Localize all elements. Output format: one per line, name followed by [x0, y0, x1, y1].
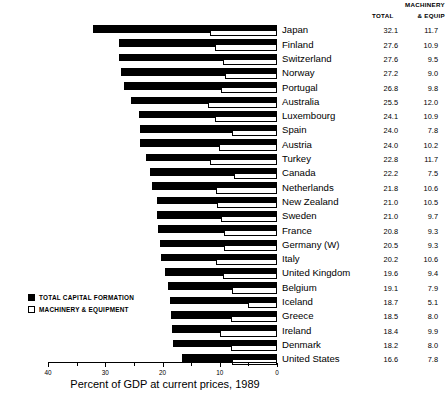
value-machinery: 11.7 [410, 155, 438, 164]
country-label: Sweden [282, 210, 317, 221]
value-total: 21.0 [372, 212, 398, 221]
axis-tick-minor [77, 363, 78, 366]
bar-machinery-equipment [223, 59, 277, 65]
bar-machinery-equipment [220, 330, 277, 336]
bar-group [0, 53, 277, 67]
bar-group [0, 38, 277, 52]
country-label: Norway [282, 67, 315, 78]
header-machinery: MACHINERY [405, 1, 445, 8]
chart-row: Netherlands21.810.6 [0, 181, 446, 195]
axis-tick-minor [191, 363, 192, 366]
chart-row: Switzerland27.69.5 [0, 53, 446, 67]
axis-tick-label: 20 [159, 369, 166, 376]
axis-tick-label: 30 [102, 369, 109, 376]
bar-group [0, 239, 277, 253]
bar-machinery-equipment [215, 116, 277, 122]
axis-tick-label: 0 [275, 369, 279, 376]
chart-row: New Zealand21.010.5 [0, 196, 446, 210]
chart-row: Spain24.07.8 [0, 124, 446, 138]
value-machinery: 10.5 [410, 198, 438, 207]
chart-row: Germany (W)20.59.3 [0, 239, 446, 253]
country-label: Japan [282, 24, 308, 35]
value-total: 22.8 [372, 155, 398, 164]
bar-group [0, 267, 277, 281]
bar-machinery-equipment [210, 30, 277, 36]
bar-machinery-equipment [231, 345, 277, 351]
chart-legend: TOTAL CAPITAL FORMATION MACHINERY & EQUI… [28, 291, 178, 315]
value-machinery: 9.7 [410, 212, 438, 221]
value-machinery: 9.0 [410, 69, 438, 78]
value-total: 27.6 [372, 55, 398, 64]
value-total: 25.5 [372, 98, 398, 107]
bar-machinery-equipment [224, 245, 277, 251]
bar-machinery-equipment [215, 44, 277, 50]
value-machinery: 9.3 [410, 241, 438, 250]
bar-group [0, 224, 277, 238]
value-total: 32.1 [372, 26, 398, 35]
country-label: Denmark [282, 339, 321, 350]
x-axis: Percent of GDP at current prices, 1989 4… [0, 362, 446, 395]
value-total: 22.2 [372, 169, 398, 178]
legend-swatch-total-icon [28, 294, 35, 301]
country-label: Italy [282, 253, 300, 264]
bar-machinery-equipment [210, 159, 277, 165]
country-label: Canada [282, 167, 316, 178]
bar-machinery-equipment [248, 302, 277, 308]
legend-swatch-machinery-icon [28, 306, 35, 313]
value-total: 27.2 [372, 69, 398, 78]
bar-machinery-equipment [225, 73, 277, 79]
bar-group [0, 24, 277, 38]
value-machinery: 9.5 [410, 55, 438, 64]
axis-tick-minor [248, 363, 249, 366]
legend-label-machinery: MACHINERY & EQUIPMENT [39, 306, 129, 313]
value-machinery: 10.6 [410, 255, 438, 264]
value-total: 24.0 [372, 126, 398, 135]
value-machinery: 9.3 [410, 227, 438, 236]
header-total: TOTAL [372, 12, 394, 19]
value-machinery: 9.8 [410, 84, 438, 93]
axis-tick-major [48, 363, 49, 367]
value-total: 20.8 [372, 227, 398, 236]
country-label: Netherlands [282, 182, 334, 193]
value-machinery: 7.9 [410, 284, 438, 293]
chart-row: Japan32.111.7 [0, 24, 446, 38]
value-total: 18.4 [372, 327, 398, 336]
country-label: New Zealand [282, 196, 339, 207]
bar-machinery-equipment [231, 316, 277, 322]
country-label: United Kingdom [282, 267, 350, 278]
axis-tick-major [220, 363, 221, 367]
legend-item-machinery: MACHINERY & EQUIPMENT [28, 303, 178, 315]
country-label: Austria [282, 139, 312, 150]
country-label: Iceland [282, 296, 313, 307]
country-label: Australia [282, 96, 319, 107]
bar-machinery-equipment [224, 230, 277, 236]
chart-row: Denmark18.28.0 [0, 339, 446, 353]
bar-group [0, 324, 277, 338]
bar-machinery-equipment [223, 273, 277, 279]
value-total: 26.8 [372, 84, 398, 93]
value-total: 27.6 [372, 41, 398, 50]
bar-group [0, 110, 277, 124]
country-label: Spain [282, 124, 307, 135]
axis-tick-label: 40 [44, 369, 51, 376]
bar-machinery-equipment [221, 216, 277, 222]
bar-group [0, 339, 277, 353]
country-label: Greece [282, 310, 313, 321]
bar-group [0, 181, 277, 195]
value-machinery: 9.4 [410, 269, 438, 278]
axis-tick-major [163, 363, 164, 367]
value-machinery: 12.0 [410, 98, 438, 107]
bar-group [0, 253, 277, 267]
country-label: Turkey [282, 153, 311, 164]
axis-tick-major [105, 363, 106, 367]
legend-label-total: TOTAL CAPITAL FORMATION [39, 294, 134, 301]
value-total: 19.1 [372, 284, 398, 293]
value-machinery: 5.1 [410, 298, 438, 307]
value-total: 24.0 [372, 141, 398, 150]
value-total: 18.7 [372, 298, 398, 307]
country-label: Luxembourg [282, 110, 335, 121]
value-machinery: 8.0 [410, 341, 438, 350]
value-machinery: 8.0 [410, 312, 438, 321]
bar-group [0, 138, 277, 152]
country-label: Germany (W) [282, 239, 340, 250]
